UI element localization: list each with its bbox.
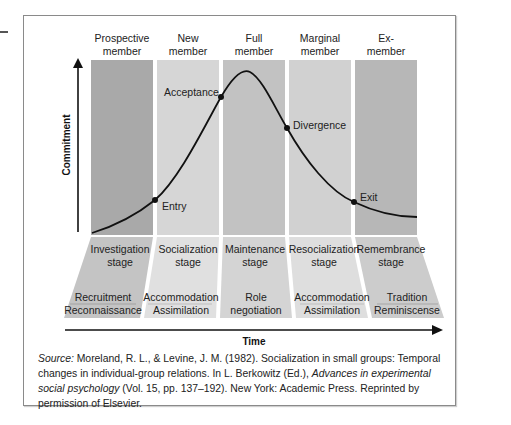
column-ex: [355, 60, 417, 235]
caption-source-label: Source:: [38, 353, 74, 364]
process-reconnaissance: Reconnaissance: [64, 304, 142, 316]
divergence-point-marker-icon: [284, 125, 290, 131]
header-marginal-2: member: [301, 45, 340, 57]
exit-label: Exit: [360, 191, 378, 203]
process-accommodation-new: Accommodation: [143, 291, 218, 303]
divergence-label: Divergence: [293, 119, 346, 131]
header-ex-2: member: [367, 45, 406, 57]
x-axis: Time: [65, 325, 443, 347]
header-full-2: member: [235, 45, 274, 57]
header-new-2: member: [169, 45, 208, 57]
header-ex-1: Ex-: [378, 32, 394, 44]
header-full-1: Full: [246, 32, 263, 44]
process-recruitment: Recruitment: [75, 291, 132, 303]
stage-resocialization-1: Resocialization: [289, 243, 360, 255]
y-axis: Commitment: [61, 58, 83, 232]
header-prospective-2: member: [103, 45, 142, 57]
stage-investigation-2: stage: [107, 256, 133, 268]
stage-investigation-1: Investigation: [91, 243, 150, 255]
process-accommodation-marginal: Accommodation: [294, 291, 369, 303]
process-negotiation: negotiation: [230, 304, 282, 316]
figure-caption: Source: Moreland, R. L., & Levine, J. M.…: [38, 351, 450, 411]
header-new-1: New: [177, 32, 198, 44]
stage-socialization-2: stage: [175, 256, 201, 268]
column-full: [223, 60, 285, 235]
stage-remembrance-1: Remembrance: [357, 243, 426, 255]
column-headers: Prospective member New member Full membe…: [95, 32, 406, 57]
x-axis-arrowhead-icon: [432, 325, 443, 335]
stage-resocialization-2: stage: [311, 256, 337, 268]
x-axis-label: Time: [242, 336, 266, 347]
exit-point-marker-icon: [351, 199, 357, 205]
entry-point-marker-icon: [152, 197, 158, 203]
process-reminiscense: Reminiscense: [374, 304, 440, 316]
y-axis-label: Commitment: [61, 114, 72, 176]
header-prospective-1: Prospective: [95, 32, 150, 44]
y-axis-arrowhead-icon: [73, 58, 83, 68]
stage-socialization-1: Socialization: [159, 243, 218, 255]
process-role: Role: [245, 291, 267, 303]
process-assimilation-new: Assimilation: [153, 304, 209, 316]
stage-maintenance-1: Maintenance: [225, 243, 285, 255]
stage-maintenance-2: stage: [242, 256, 268, 268]
acceptance-label: Acceptance: [164, 86, 219, 98]
entry-label: Entry: [162, 200, 187, 212]
process-tradition: Tradition: [387, 291, 428, 303]
process-assimilation-marginal: Assimilation: [304, 304, 360, 316]
stage-remembrance-2: stage: [378, 256, 404, 268]
acceptance-point-marker-icon: [218, 94, 224, 100]
header-marginal-1: Marginal: [300, 32, 340, 44]
